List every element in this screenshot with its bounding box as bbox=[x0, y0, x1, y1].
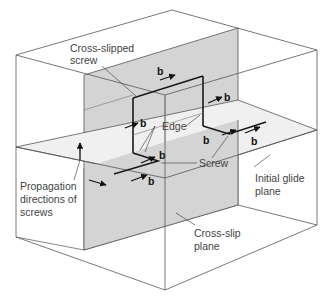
label-cross-slipped-screw-1: Cross-slipped bbox=[70, 42, 134, 54]
b-label-right-vertical: b bbox=[224, 92, 230, 103]
b-label-left-vertical: b bbox=[140, 118, 146, 129]
b-label-top: b bbox=[157, 66, 163, 77]
label-propagation-2: directions of bbox=[20, 193, 77, 205]
label-propagation-1: Propagation bbox=[20, 180, 77, 192]
b-label-glide-right-upper: b bbox=[203, 135, 209, 146]
label-edge: Edge bbox=[162, 120, 187, 132]
label-screw: Screw bbox=[199, 157, 228, 169]
b-label-glide-right-lower: b bbox=[251, 136, 257, 147]
label-cross-slip-2: plane bbox=[194, 240, 220, 252]
b-label-glide-left-lower: b bbox=[148, 176, 154, 187]
box-back-lines bbox=[16, 237, 84, 250]
cross-slip-diagram bbox=[0, 0, 334, 302]
label-propagation-3: screws bbox=[20, 206, 53, 218]
b-label-glide-left-upper: b bbox=[159, 150, 165, 161]
label-initial-glide-1: Initial glide bbox=[255, 172, 305, 184]
label-cross-slip-1: Cross-slip bbox=[194, 227, 241, 239]
label-initial-glide-2: plane bbox=[255, 185, 281, 197]
label-cross-slipped-screw-2: screw bbox=[70, 54, 97, 66]
